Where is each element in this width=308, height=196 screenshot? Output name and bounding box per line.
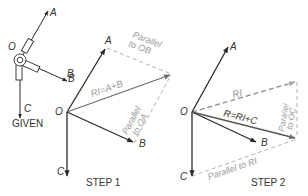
step2-label-resultant: R=RI+C — [223, 107, 259, 126]
step2-label-a: A — [229, 41, 237, 52]
step1-label-b: B — [139, 138, 146, 149]
step1-label-a: A — [104, 35, 112, 46]
step1-label-origin: O — [55, 106, 63, 117]
step2-panel: A O B C RI R=RI+C Parallel to OC Paralle… — [180, 41, 298, 188]
step2-label-c: C — [180, 171, 188, 182]
step2-caption: STEP 2 — [251, 177, 286, 188]
step2-label-origin: O — [180, 106, 188, 117]
step1-caption: STEP 1 — [86, 177, 121, 188]
step2-vector-a — [192, 47, 228, 112]
joint-member-icon — [14, 38, 40, 80]
given-panel: A O B C GIVEN — [8, 7, 74, 129]
step1-label-b-top: B — [68, 73, 75, 84]
given-vector-a — [20, 11, 48, 60]
step2-label-r1: RI — [231, 87, 243, 100]
step2-parallel-r1-line — [192, 139, 297, 176]
step1-panel: A B O B C RI=A+B Parallel to OB Parallel… — [55, 30, 171, 188]
given-caption: GIVEN — [12, 118, 43, 129]
given-label-origin: O — [8, 41, 16, 52]
step1-label-c: C — [57, 166, 65, 177]
given-label-a: A — [49, 7, 57, 18]
given-label-c: C — [24, 103, 32, 114]
step1-label-resultant: RI=A+B — [89, 77, 125, 98]
step2-label-b: B — [261, 137, 268, 148]
vector-addition-diagram: A O B C GIVEN A B O B C RI=A+B Parallel … — [0, 0, 308, 196]
